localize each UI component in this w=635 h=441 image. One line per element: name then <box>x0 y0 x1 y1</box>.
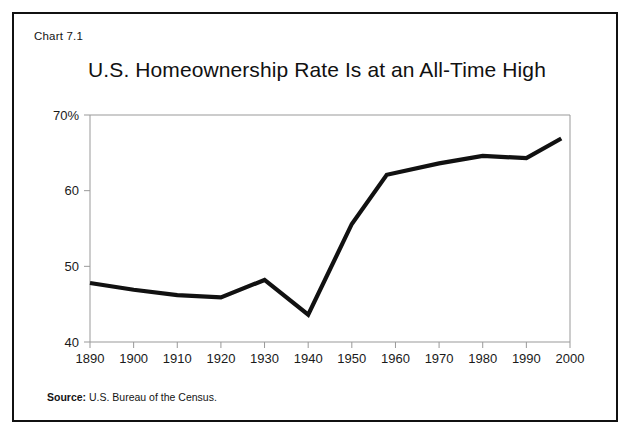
axis-group <box>90 115 570 342</box>
y-tick-label: 70% <box>53 108 79 123</box>
source-note: Source: U.S. Bureau of the Census. <box>47 391 217 403</box>
plot-frame <box>90 115 570 342</box>
x-tick-label: 1960 <box>381 351 410 366</box>
x-tick-label: 1940 <box>294 351 323 366</box>
x-tick-label: 1920 <box>206 351 235 366</box>
x-tick-label: 1910 <box>163 351 192 366</box>
y-tick-label: 40 <box>65 335 79 350</box>
source-label: Source: <box>47 391 86 403</box>
source-text: U.S. Bureau of the Census. <box>86 391 217 403</box>
y-axis-tick-labels: 70%605040 <box>53 108 79 350</box>
line-chart-svg: 1890190019101920193019401950196019701980… <box>14 14 620 424</box>
data-series-group <box>90 138 561 314</box>
tick-marks-group <box>84 115 570 348</box>
x-axis-tick-labels: 1890190019101920193019401950196019701980… <box>76 351 585 366</box>
x-tick-label: 1950 <box>337 351 366 366</box>
x-tick-label: 1930 <box>250 351 279 366</box>
x-tick-label: 1990 <box>512 351 541 366</box>
figure-page: Chart 7.1 U.S. Homeownership Rate Is at … <box>0 0 635 441</box>
figure-border: Chart 7.1 U.S. Homeownership Rate Is at … <box>12 12 618 422</box>
y-tick-label: 60 <box>65 183 79 198</box>
x-tick-label: 2000 <box>556 351 585 366</box>
plot-area: 1890190019101920193019401950196019701980… <box>14 14 620 424</box>
data-line <box>90 138 561 314</box>
y-tick-label: 50 <box>65 259 79 274</box>
x-tick-label: 1890 <box>76 351 105 366</box>
x-tick-label: 1980 <box>468 351 497 366</box>
x-tick-label: 1900 <box>119 351 148 366</box>
x-tick-label: 1970 <box>425 351 454 366</box>
